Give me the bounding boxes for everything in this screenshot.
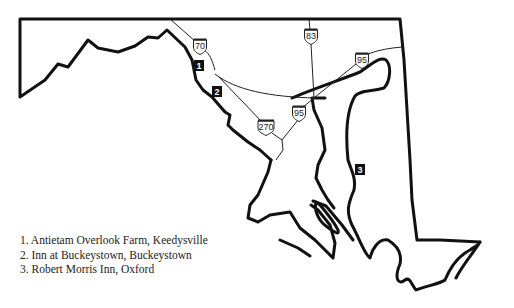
location-marker: 3 [355,164,365,175]
marker-number: 3 [357,165,362,175]
highway-number: 270 [258,122,273,132]
marker-number: 2 [214,87,219,97]
location-marker: 2 [212,86,222,97]
highway-number: 83 [306,31,316,41]
legend-item-1: 1. Antietam Overlook Farm, Keedysville [20,233,208,248]
upper-bay-shore [312,98,334,208]
highway-number: 70 [195,41,205,51]
interstate-shield-icon: 95 [293,106,306,122]
legend-item-3: 3. Robert Morris Inn, Oxford [20,262,208,277]
road-i270 [218,76,262,122]
marker-number: 1 [196,61,201,71]
highway-number: 95 [357,55,367,65]
road-i270-south [272,133,283,160]
road-i70-west [204,50,215,70]
location-marker: 1 [194,60,204,71]
legend: 1. Antietam Overlook Farm, Keedysville 2… [20,233,208,277]
legend-item-2: 2. Inn at Buckeystown, Buckeystown [20,248,208,263]
interstate-shield-icon: 270 [258,120,274,136]
interstate-shield-icon: 70 [194,39,207,55]
highway-number: 95 [294,108,304,118]
interstate-shield-icon: 83 [305,29,318,45]
